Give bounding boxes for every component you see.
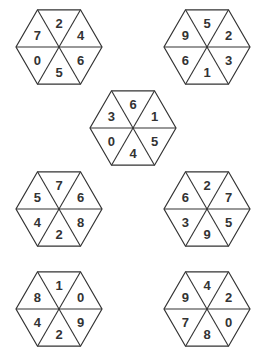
hexagon-3-upper-right-number: 1: [151, 109, 158, 124]
hexagon-3-bottom-number: 4: [129, 146, 137, 161]
hexagon-6-bottom-number: 2: [55, 327, 62, 342]
hexagon-2-lower-right-number: 3: [225, 53, 232, 68]
hexagon-4-bottom-number: 2: [55, 227, 62, 242]
hexagon-2-upper-left-number: 9: [182, 28, 189, 43]
hexagon-7-upper-right-number: 2: [225, 290, 232, 305]
hexagon-5: 275936: [164, 172, 250, 246]
hexagon-1-upper-left-number: 7: [34, 28, 41, 43]
hexagon-1-upper-right-number: 4: [77, 28, 85, 43]
hexagon-7-lower-right-number: 0: [225, 315, 232, 330]
hexagon-7-bottom-number: 8: [203, 327, 210, 342]
hexagon-3-lower-right-number: 5: [151, 134, 158, 149]
hexagon-6-top-number: 1: [55, 278, 62, 293]
hexagon-2-lower-left-number: 6: [182, 53, 189, 68]
hexagon-1-lower-left-number: 0: [34, 53, 41, 68]
hexagon-puzzle-canvas: 2465075231696154037682452759361092484208…: [0, 0, 260, 355]
hexagon-7-lower-left-number: 7: [182, 315, 189, 330]
hexagon-6-upper-left-number: 8: [34, 290, 41, 305]
hexagon-5-upper-right-number: 7: [225, 190, 232, 205]
hexagon-4: 768245: [16, 172, 102, 246]
hexagon-2: 523169: [164, 10, 250, 84]
hexagon-7-upper-left-number: 9: [182, 290, 189, 305]
hexagon-3-top-number: 6: [129, 97, 136, 112]
hexagon-3: 615403: [90, 91, 176, 165]
hexagon-4-upper-right-number: 6: [77, 190, 84, 205]
hexagon-3-lower-left-number: 0: [108, 134, 115, 149]
hexagon-6-upper-right-number: 0: [77, 290, 84, 305]
hexagon-4-lower-left-number: 4: [34, 215, 42, 230]
hexagon-1-lower-right-number: 6: [77, 53, 84, 68]
hexagon-1: 246507: [16, 10, 102, 84]
hexagon-5-bottom-number: 9: [203, 227, 210, 242]
hexagon-2-top-number: 5: [203, 16, 210, 31]
hexagon-1-bottom-number: 5: [55, 65, 62, 80]
hexagon-4-top-number: 7: [55, 178, 62, 193]
hexagon-4-upper-left-number: 5: [34, 190, 41, 205]
hexagon-5-lower-right-number: 5: [225, 215, 232, 230]
hexagon-1-top-number: 2: [55, 16, 62, 31]
hexagon-7-top-number: 4: [203, 278, 211, 293]
hexagon-2-bottom-number: 1: [203, 65, 210, 80]
hexagon-6: 109248: [16, 272, 102, 346]
hexagon-7: 420879: [164, 272, 250, 346]
hexagon-5-top-number: 2: [203, 178, 210, 193]
hexagon-6-lower-right-number: 9: [77, 315, 84, 330]
hexagon-2-upper-right-number: 2: [225, 28, 232, 43]
hexagon-5-upper-left-number: 6: [182, 190, 189, 205]
hexagon-6-lower-left-number: 4: [34, 315, 42, 330]
hexagon-4-lower-right-number: 8: [77, 215, 84, 230]
hexagon-3-upper-left-number: 3: [108, 109, 115, 124]
hexagon-5-lower-left-number: 3: [182, 215, 189, 230]
